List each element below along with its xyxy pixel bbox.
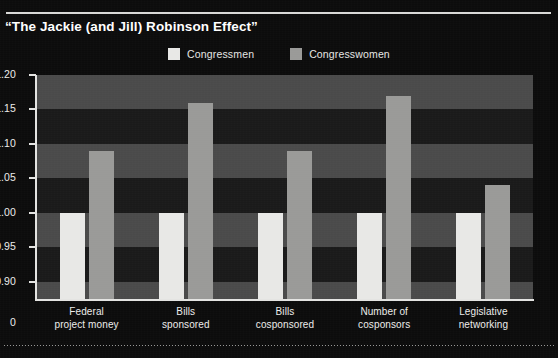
bar-congresswomen-bills-sponsored [188, 103, 213, 299]
y-tick-label: 0.90 [0, 275, 16, 287]
x-tick-label-line: project money [37, 319, 136, 332]
y-tick-label: 1.00 [0, 206, 16, 218]
x-tick-label-bills-sponsored: Billssponsored [136, 306, 235, 331]
legend-label: Congressmen [187, 48, 254, 60]
bar-congressmen-number-of-cosponsors [357, 213, 382, 299]
y-tick-mark [29, 143, 36, 145]
legend-label: Congresswomen [309, 48, 390, 60]
y-tick-mark [29, 246, 36, 248]
y-tick-mark [29, 108, 36, 110]
y-tick-mark [29, 281, 36, 283]
x-tick-label-line: networking [434, 319, 533, 332]
x-tick-label-legislative-networking: Legislativenetworking [434, 306, 533, 331]
x-tick-label-line: Bills [136, 306, 235, 319]
y-tick-label: 0 [10, 316, 16, 328]
bar-congressmen-bills-sponsored [159, 213, 184, 299]
plot-area [37, 75, 533, 299]
chart-legend: CongressmenCongresswomen [0, 48, 558, 60]
x-tick-label-line: sponsored [136, 319, 235, 332]
footer-dotted-rule [4, 345, 554, 346]
x-tick-label-line: cosponsored [235, 319, 334, 332]
x-tick-label-number-of-cosponsors: Number ofcosponsors [335, 306, 434, 331]
y-tick-label: 1.05 [0, 171, 16, 183]
x-tick-label-bills-cosponsored: Billscosponsored [235, 306, 334, 331]
bar-congresswomen-number-of-cosponsors [386, 96, 411, 299]
y-tick-label: 1.20 [0, 68, 16, 80]
y-tick-mark [29, 74, 36, 76]
bar-congresswomen-bills-cosponsored [287, 151, 312, 299]
y-tick-mark [29, 177, 36, 179]
x-tick-label-line: Bills [235, 306, 334, 319]
legend-item-congressmen[interactable]: Congressmen [168, 48, 254, 60]
y-tick-label: 0.95 [0, 240, 16, 252]
bar-congresswomen-legislative-networking [485, 185, 510, 299]
x-tick-label-line: Number of [335, 306, 434, 319]
header-rule [6, 12, 551, 14]
page-title: “The Jackie (and Jill) Robinson Effect” [5, 19, 258, 34]
legend-swatch-congressmen [168, 48, 180, 60]
y-tick-label: 1.10 [0, 137, 16, 149]
x-tick-label-federal-project-money: Federalproject money [37, 306, 136, 331]
x-tick-label-line: Federal [37, 306, 136, 319]
bar-congressmen-federal-project-money [60, 213, 85, 299]
y-tick-mark [29, 212, 36, 214]
bar-congressmen-legislative-networking [456, 213, 481, 299]
legend-swatch-congresswomen [290, 48, 302, 60]
bar-congressmen-bills-cosponsored [258, 213, 283, 299]
bar-congresswomen-federal-project-money [89, 151, 114, 299]
x-axis-line [37, 299, 534, 301]
y-tick-label: 1.15 [0, 102, 16, 114]
x-tick-label-line: Legislative [434, 306, 533, 319]
x-tick-label-line: cosponsors [335, 319, 434, 332]
bars-layer [37, 75, 533, 299]
legend-item-congresswomen[interactable]: Congresswomen [290, 48, 390, 60]
chart-figure: “The Jackie (and Jill) Robinson Effect” … [0, 0, 558, 358]
